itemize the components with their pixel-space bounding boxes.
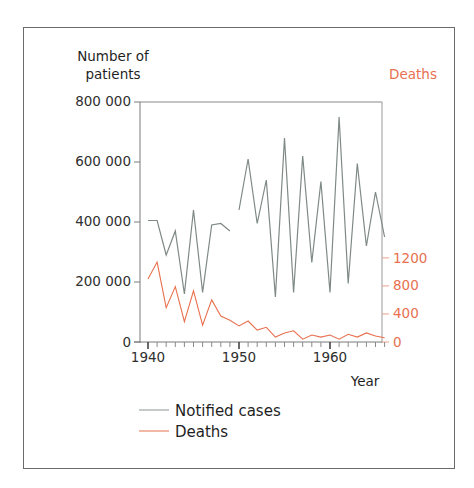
right-tick-label-1200: 1200 <box>393 250 427 266</box>
left-axis-title-line2: patients <box>85 66 140 82</box>
left-axis-title-line1: Number of <box>77 48 150 64</box>
notified-cases-line <box>148 210 230 294</box>
legend: Notified cases Deaths <box>139 402 281 441</box>
x-axis-title: Year <box>350 373 380 389</box>
right-tick-label-400: 400 <box>393 305 419 321</box>
right-tick-label-800: 800 <box>393 277 419 293</box>
chart: Number of patients Deaths 1940 1950 1960… <box>0 0 474 488</box>
x-tick-label-1940: 1940 <box>131 349 165 365</box>
x-axis-ticks <box>148 342 385 349</box>
legend-label-notified-cases: Notified cases <box>175 402 281 420</box>
legend-label-deaths: Deaths <box>175 423 228 441</box>
left-tick-label-0: 0 <box>122 334 131 350</box>
x-tick-label-1960: 1960 <box>313 349 347 365</box>
left-axis-ticks <box>134 102 140 342</box>
left-tick-label-600000: 600 000 <box>75 153 131 169</box>
right-axis-ticks <box>382 258 389 342</box>
notified-cases-line <box>239 117 385 297</box>
x-tick-label-1950: 1950 <box>222 349 256 365</box>
left-tick-label-200000: 200 000 <box>75 273 131 289</box>
left-tick-label-800000: 800 000 <box>75 93 131 109</box>
right-tick-label-0: 0 <box>393 334 402 350</box>
left-tick-label-400000: 400 000 <box>75 213 131 229</box>
series-layer <box>148 117 385 339</box>
right-axis-title: Deaths <box>389 66 437 82</box>
